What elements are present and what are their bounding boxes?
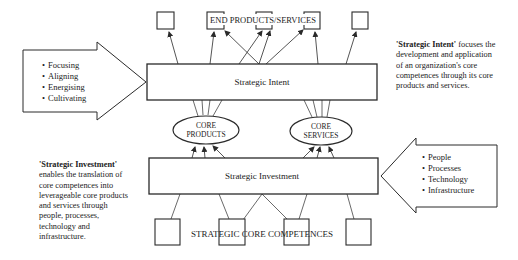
intent-to-products-arrows xyxy=(169,30,356,64)
investment-to-competence-lines xyxy=(171,194,354,220)
svg-text:•: • xyxy=(422,185,425,195)
strategic-investment-term: 'Strategic Investment' xyxy=(39,160,117,169)
left-arrow-item: Energising xyxy=(48,82,85,92)
strategic-investment-description: 'Strategic Investment' enables the trans… xyxy=(39,160,131,242)
core-services-line2: SERVICES xyxy=(304,131,339,140)
strategic-investment-label: Strategic Investment xyxy=(225,171,300,181)
svg-text:•: • xyxy=(42,93,45,103)
svg-text:•: • xyxy=(422,163,425,173)
intent-to-core-lines xyxy=(193,100,330,117)
investment-to-core-arrows xyxy=(192,146,334,158)
right-arrow-item: Infrastructure xyxy=(428,185,474,195)
left-arrow-item: Aligning xyxy=(48,71,79,81)
right-arrow-item: People xyxy=(428,152,451,162)
end-products-label: END PRODUCTS/SERVICES xyxy=(210,15,316,25)
core-competences-label: STRATEGIC CORE COMPETENCES xyxy=(191,229,333,239)
strategic-intent-term: 'Strategic Intent' xyxy=(396,40,456,49)
left-arrow-item: Cultivating xyxy=(48,93,87,103)
right-arrow-item: Technology xyxy=(428,174,469,184)
strategic-investment-text: enables the translation of core competen… xyxy=(39,170,128,241)
left-arrow-item: Focusing xyxy=(48,60,80,70)
core-products-line2: PRODUCTS xyxy=(186,130,225,139)
competence-box-1 xyxy=(155,219,180,245)
left-arrow-shape xyxy=(23,42,146,120)
strategic-intent-description: 'Strategic Intent' focuses the developme… xyxy=(396,40,496,91)
right-arrow-item: Processes xyxy=(428,163,461,173)
svg-text:•: • xyxy=(42,82,45,92)
core-services-line1: CORE xyxy=(311,122,331,131)
svg-text:•: • xyxy=(422,152,425,162)
strategic-intent-label: Strategic Intent xyxy=(234,77,290,87)
end-product-box-5 xyxy=(352,12,368,29)
competence-box-4 xyxy=(346,219,371,245)
svg-text:•: • xyxy=(42,71,45,81)
core-products-line1: CORE xyxy=(196,121,216,130)
svg-text:•: • xyxy=(42,60,45,70)
svg-text:•: • xyxy=(422,174,425,184)
end-product-box-1 xyxy=(157,12,174,29)
